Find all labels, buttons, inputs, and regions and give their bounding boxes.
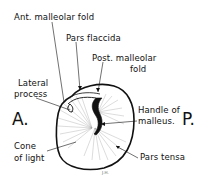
label-ant-malleolar-fold: Ant. malleolar fold — [14, 13, 94, 23]
label-pars-tensa: Pars tensa — [140, 153, 185, 163]
label-pars-flaccida: Pars flaccida — [66, 34, 121, 44]
posterior-marker: P. — [182, 110, 195, 128]
label-lateral-process-line2: process — [14, 90, 47, 100]
handle-of-malleus — [92, 98, 102, 135]
label-lateral-process-line1: Lateral — [18, 79, 48, 89]
label-post-malleolar-fold-line1: Post. malleolar — [92, 54, 156, 64]
label-handle-of-malleus-line2: malleus. — [138, 117, 175, 127]
artist-signature: J.H. — [102, 170, 109, 175]
label-cone-of-light-line2: of light — [14, 154, 45, 164]
label-cone-of-light-line1: Cone — [14, 142, 36, 152]
drum-outline — [56, 84, 134, 169]
label-handle-of-malleus-line1: Handle of — [138, 106, 180, 116]
label-post-malleolar-fold-line2: fold — [130, 65, 146, 75]
anterior-marker: A. — [12, 110, 29, 128]
